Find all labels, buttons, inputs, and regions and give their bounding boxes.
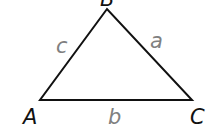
vertex-label-b: B (100, 0, 114, 11)
side-label-b: b (108, 105, 121, 129)
side-label-c: c (56, 34, 68, 58)
side-label-a: a (150, 29, 163, 53)
vertex-label-c: C (190, 105, 205, 129)
triangle-diagram: B A C c a b (0, 0, 221, 134)
vertex-label-a: A (21, 105, 37, 129)
